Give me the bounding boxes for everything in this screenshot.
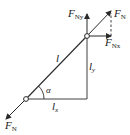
pivot-lower: [24, 97, 29, 102]
force-n-bottom-arrow: [6, 99, 26, 119]
force-n-top-arrow: [87, 11, 111, 36]
label-l-y: ly: [89, 60, 96, 74]
label-l: l: [56, 52, 59, 64]
label-f-nx: FNx: [104, 36, 121, 50]
label-l-x: lx: [52, 100, 59, 114]
label-angle: α: [46, 85, 51, 95]
label-f-n-top: FN: [113, 7, 126, 21]
label-f-n-bottom: FN: [4, 119, 17, 133]
rod-line: [26, 36, 87, 99]
pivot-upper: [85, 34, 90, 39]
angle-arc: [39, 86, 45, 99]
label-f-ny: FNy: [67, 7, 84, 21]
force-diagram: FN FNy FNx l ly lx α FN: [0, 0, 130, 135]
